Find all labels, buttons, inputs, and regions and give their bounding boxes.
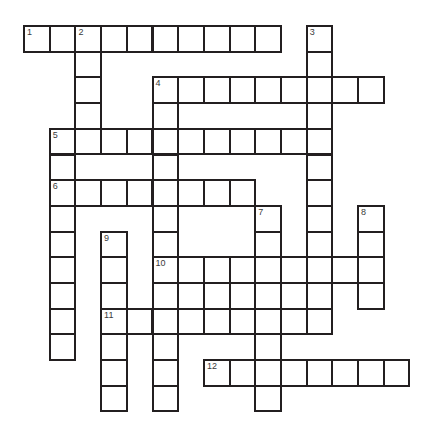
crossword-cell[interactable] [152,179,180,207]
crossword-cell[interactable] [229,359,257,387]
crossword-cell[interactable] [306,154,334,182]
crossword-cell[interactable] [152,282,180,310]
crossword-cell[interactable]: 9 [100,231,128,259]
crossword-cell[interactable] [306,51,334,79]
crossword-cell[interactable] [49,333,77,361]
crossword-cell[interactable]: 7 [254,205,282,233]
crossword-cell[interactable] [254,128,282,156]
crossword-cell[interactable]: 10 [152,256,180,284]
crossword-cell[interactable] [254,282,282,310]
crossword-cell[interactable] [74,128,102,156]
crossword-cell[interactable] [331,256,359,284]
crossword-cell[interactable] [74,51,102,79]
crossword-cell[interactable] [100,256,128,284]
crossword-cell[interactable] [280,308,308,336]
crossword-cell[interactable] [254,385,282,413]
crossword-cell[interactable] [74,179,102,207]
crossword-cell[interactable] [152,231,180,259]
crossword-cell[interactable] [357,282,385,310]
crossword-cell[interactable] [177,308,205,336]
crossword-cell[interactable] [306,76,334,104]
crossword-cell[interactable] [152,359,180,387]
crossword-cell[interactable] [203,25,231,53]
crossword-cell[interactable] [203,76,231,104]
crossword-cell[interactable] [152,154,180,182]
crossword-cell[interactable] [357,76,385,104]
crossword-cell[interactable]: 4 [152,76,180,104]
crossword-cell[interactable] [203,128,231,156]
crossword-cell[interactable] [254,308,282,336]
crossword-cell[interactable] [306,205,334,233]
crossword-cell[interactable] [306,282,334,310]
crossword-cell[interactable]: 12 [203,359,231,387]
crossword-cell[interactable] [126,128,154,156]
crossword-cell[interactable] [74,76,102,104]
crossword-cell[interactable] [49,205,77,233]
crossword-cell[interactable]: 8 [357,205,385,233]
crossword-cell[interactable] [306,359,334,387]
crossword-cell[interactable] [229,179,257,207]
crossword-cell[interactable] [177,256,205,284]
crossword-cell[interactable] [49,308,77,336]
crossword-cell[interactable] [331,76,359,104]
crossword-cell[interactable] [306,179,334,207]
crossword-cell[interactable] [126,308,154,336]
crossword-cell[interactable] [100,333,128,361]
crossword-cell[interactable] [203,282,231,310]
crossword-cell[interactable] [100,385,128,413]
crossword-cell[interactable] [49,25,77,53]
crossword-cell[interactable] [306,102,334,130]
crossword-cell[interactable] [357,256,385,284]
crossword-cell[interactable] [383,359,411,387]
crossword-cell[interactable] [126,25,154,53]
crossword-cell[interactable]: 2 [74,25,102,53]
crossword-cell[interactable] [280,76,308,104]
crossword-cell[interactable] [254,76,282,104]
crossword-cell[interactable] [126,179,154,207]
crossword-cell[interactable] [152,308,180,336]
crossword-cell[interactable] [203,256,231,284]
crossword-cell[interactable] [177,25,205,53]
crossword-cell[interactable]: 11 [100,308,128,336]
crossword-cell[interactable] [254,231,282,259]
crossword-cell[interactable] [306,256,334,284]
crossword-cell[interactable] [306,308,334,336]
crossword-cell[interactable] [280,359,308,387]
crossword-cell[interactable] [152,25,180,53]
crossword-cell[interactable] [280,128,308,156]
crossword-cell[interactable] [229,128,257,156]
crossword-cell[interactable] [229,256,257,284]
crossword-cell[interactable] [254,333,282,361]
crossword-cell[interactable] [177,128,205,156]
crossword-cell[interactable] [152,385,180,413]
crossword-cell[interactable] [100,359,128,387]
crossword-cell[interactable] [74,102,102,130]
crossword-cell[interactable] [229,76,257,104]
crossword-cell[interactable] [357,231,385,259]
crossword-cell[interactable] [49,231,77,259]
crossword-cell[interactable] [331,359,359,387]
crossword-grid[interactable]: 123456789101112 [0,0,428,432]
crossword-cell[interactable] [177,179,205,207]
crossword-cell[interactable] [152,128,180,156]
crossword-cell[interactable] [100,282,128,310]
crossword-cell[interactable] [100,25,128,53]
crossword-cell[interactable] [203,179,231,207]
crossword-cell[interactable] [152,102,180,130]
crossword-cell[interactable] [49,282,77,310]
crossword-cell[interactable] [306,231,334,259]
crossword-cell[interactable]: 1 [23,25,51,53]
crossword-cell[interactable] [49,154,77,182]
crossword-cell[interactable] [280,256,308,284]
crossword-cell[interactable] [100,128,128,156]
crossword-cell[interactable]: 3 [306,25,334,53]
crossword-cell[interactable]: 6 [49,179,77,207]
crossword-cell[interactable] [203,308,231,336]
crossword-cell[interactable] [306,128,334,156]
crossword-cell[interactable] [152,205,180,233]
crossword-cell[interactable] [254,256,282,284]
crossword-cell[interactable] [254,25,282,53]
crossword-cell[interactable] [177,76,205,104]
crossword-cell[interactable] [100,179,128,207]
crossword-cell[interactable] [229,25,257,53]
